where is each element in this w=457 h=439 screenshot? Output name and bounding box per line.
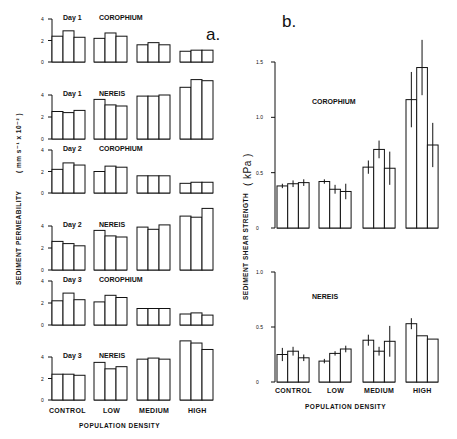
y-tick-label: 1.0	[256, 269, 263, 275]
bar	[116, 298, 127, 326]
bar	[319, 182, 330, 228]
bar	[363, 167, 374, 228]
bar	[137, 96, 148, 139]
bar	[374, 351, 385, 382]
bar	[417, 336, 428, 382]
category-medium: MEDIUM	[139, 407, 169, 414]
bar	[52, 112, 63, 140]
y-tick-label: 0	[41, 190, 44, 196]
y-tick-label: 4	[41, 354, 44, 360]
bar	[137, 227, 148, 270]
subplot-day: Day 1	[63, 90, 82, 98]
bar	[52, 169, 63, 193]
bar	[148, 96, 159, 139]
subplot-species: NEREIS	[99, 352, 125, 359]
bar	[180, 341, 191, 400]
bar	[330, 189, 341, 228]
bar	[298, 358, 309, 382]
bar	[191, 50, 202, 62]
bar	[148, 309, 159, 326]
bar	[52, 241, 63, 270]
bar	[52, 374, 63, 400]
bar	[148, 43, 159, 62]
bar	[180, 183, 191, 193]
bar	[74, 165, 85, 193]
bar	[191, 182, 202, 193]
category-low: LOW	[327, 387, 344, 394]
y-tick-label: 2	[41, 376, 44, 382]
y-tick-label: 2	[41, 300, 44, 306]
y-axis-units-b: ( kPa )	[242, 153, 253, 186]
bar	[202, 50, 213, 62]
bar	[180, 216, 191, 270]
bar	[148, 229, 159, 270]
bar	[116, 167, 127, 193]
bar	[63, 31, 74, 62]
subplot-day: Day 3	[63, 276, 82, 284]
y-tick-label: 0	[41, 267, 44, 273]
bar	[277, 186, 288, 228]
bar	[74, 110, 85, 139]
bar	[374, 149, 385, 228]
y-tick-label: 0	[41, 136, 44, 142]
y-tick-label: 0.5	[256, 324, 263, 330]
y-axis-label-b: SEDIMENT SHEAR STRENGTH	[242, 193, 249, 300]
subplot-day: Day 2	[63, 221, 82, 229]
x-axis-label-a: POPULATION DENSITY	[79, 422, 160, 429]
bar	[406, 324, 417, 382]
bar	[202, 208, 213, 270]
y-axis-label-a: SEDIMENT PERMEABILITY	[15, 191, 22, 285]
bar	[288, 351, 299, 382]
bar	[319, 361, 330, 382]
bar	[105, 166, 116, 193]
subplot-species: COROPHIUM	[99, 145, 143, 152]
y-tick-label: 0	[256, 225, 259, 231]
y-tick-label: 0	[41, 397, 44, 403]
bar	[94, 302, 105, 325]
subplot-a-1: 024Day 1COROPHIUM	[41, 14, 213, 65]
y-tick-label: 0	[256, 379, 259, 385]
subplot-b-2: 00.51.0NEREIS	[256, 269, 438, 385]
bar	[74, 37, 85, 62]
bar	[340, 349, 351, 382]
bar	[116, 106, 127, 139]
bar	[330, 353, 341, 382]
y-tick-label: 2	[41, 114, 44, 120]
y-tick-label: 1.5	[256, 59, 263, 65]
subplot-day: Day 1	[63, 14, 82, 22]
subplot-a-4: 024Day 2NEREIS	[41, 208, 213, 273]
bar	[63, 113, 74, 139]
bar	[94, 230, 105, 270]
subplot-a-2: 024Day 1NEREIS	[41, 80, 213, 142]
bar	[191, 80, 202, 139]
bar	[105, 105, 116, 139]
y-tick-label: 4	[41, 223, 44, 229]
x-categories-a: CONTROL LOW MEDIUM HIGH	[49, 407, 207, 414]
bar	[191, 313, 202, 325]
subplot-day: Day 2	[63, 145, 82, 153]
y-tick-label: 4	[41, 92, 44, 98]
y-tick-label: 1.0	[256, 114, 263, 120]
subplot-species: COROPHIUM	[312, 98, 356, 105]
y-tick-label: 2	[41, 38, 44, 44]
bar	[94, 172, 105, 194]
bar	[63, 163, 74, 193]
y-tick-label: 2	[41, 245, 44, 251]
bar	[148, 176, 159, 193]
subplot-species: NEREIS	[99, 221, 125, 228]
bar	[105, 236, 116, 270]
bar	[74, 300, 85, 325]
bar	[105, 369, 116, 400]
bar	[94, 362, 105, 400]
figure: a. b. SEDIMENT PERMEABILITY ( mm s⁻¹ x 1…	[0, 0, 457, 439]
bar	[137, 45, 148, 62]
bar	[63, 293, 74, 325]
bar	[202, 349, 213, 400]
bar	[191, 343, 202, 400]
bar	[191, 217, 202, 270]
bar	[159, 225, 170, 270]
category-control: CONTROL	[49, 407, 86, 414]
bar	[94, 38, 105, 62]
category-medium: MEDIUM	[364, 387, 394, 394]
bar	[159, 359, 170, 400]
